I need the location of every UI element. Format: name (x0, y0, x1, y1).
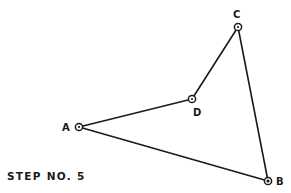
label-a: A (62, 122, 70, 133)
point-d (188, 95, 195, 102)
quadrilateral-diagram: A B C D (0, 0, 291, 193)
edge-b-a (79, 127, 268, 181)
label-c: C (233, 9, 240, 20)
point-c (234, 23, 241, 30)
step-caption: STEP NO. 5 (7, 170, 86, 182)
edge-d-c (192, 27, 238, 99)
label-b: B (276, 176, 284, 187)
edge-a-d (79, 99, 192, 127)
edge-c-b (238, 27, 268, 181)
point-b (264, 177, 271, 184)
point-a (75, 123, 82, 130)
label-d: D (193, 107, 201, 118)
